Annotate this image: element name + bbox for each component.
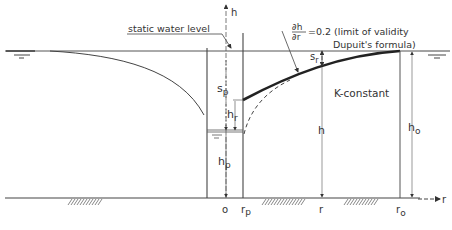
water-surface-symbol-right <box>420 51 450 58</box>
hr-label: hr <box>227 108 238 123</box>
well-water-level <box>207 130 243 138</box>
water-surface-symbol-left <box>6 51 35 58</box>
k-constant-label: K-constant <box>334 87 389 99</box>
rp-label: rp <box>241 204 251 217</box>
static-level-leader <box>222 34 231 48</box>
static-water-level-label: static water level <box>128 23 210 34</box>
h-label: h <box>318 124 325 137</box>
origin-label: o <box>222 204 228 215</box>
hp-label: hp <box>218 155 231 170</box>
derivative-denominator: ∂r <box>292 32 301 42</box>
r0-label: ro <box>396 204 406 218</box>
derivative-value-label: =0.2 (limit of validity <box>308 26 409 37</box>
r-axis-label: r <box>442 194 447 205</box>
derivative-numerator: ∂h <box>292 22 302 32</box>
well-drawdown-diagram: r h static water level ∂h ∂r =0.2 (limit… <box>0 0 452 230</box>
h0-label: ho <box>408 121 421 136</box>
dupuit-formula-label: Dupuit's formula) <box>333 39 416 50</box>
sp-label: sp <box>217 82 229 97</box>
h-axis-label: h <box>231 7 237 18</box>
sr-label: sr <box>310 51 319 65</box>
r-label: r <box>319 204 324 215</box>
left-drawdown-curve <box>50 51 204 115</box>
